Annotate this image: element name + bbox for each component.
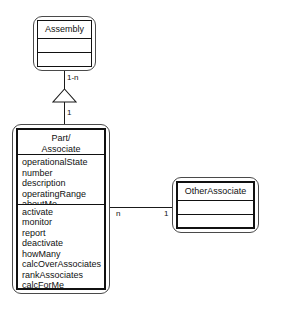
operation-item: calcForMe: [22, 280, 102, 288]
operation-item: monitor: [22, 217, 102, 228]
class-name-text-line1: Part/: [20, 133, 102, 144]
operation-item: howMany: [22, 249, 102, 260]
class-operations-compartment: [38, 53, 91, 66]
class-operations-compartment: [178, 215, 253, 228]
class-name-text: Assembly: [40, 24, 89, 35]
class-name-text: OtherAssociate: [180, 186, 251, 197]
class-name-compartment: Part/ Associate: [18, 130, 104, 155]
aggregation-hollow-triangle-arrowhead: [52, 88, 77, 103]
class-operations-compartment: activate monitor report deactivate howMa…: [18, 205, 104, 288]
operation-item: report: [22, 228, 102, 239]
attribute-item: operatingRange: [22, 189, 102, 200]
class-inner-frame: Assembly: [37, 20, 92, 67]
class-name-text-line2: Associate: [20, 144, 102, 155]
class-inner-frame: OtherAssociate: [176, 181, 255, 229]
multiplicity-label-part-generalization-end: 1: [67, 108, 71, 117]
attribute-item: number: [22, 168, 102, 179]
class-name-compartment: Assembly: [38, 21, 91, 39]
class-box-part-associate[interactable]: Part/ Associate operationalState number …: [12, 124, 110, 294]
attribute-item: operationalState: [22, 157, 102, 168]
class-inner-frame: Part/ Associate operationalState number …: [16, 128, 106, 290]
class-attributes-compartment: [178, 201, 253, 215]
operation-item: deactivate: [22, 238, 102, 249]
class-attributes-compartment: operationalState number description oper…: [18, 155, 104, 204]
hollow-triangle-icon: [52, 88, 77, 103]
class-name-compartment: OtherAssociate: [178, 183, 253, 201]
aggregation-edge-lower-segment: [64, 102, 65, 124]
operation-item: activate: [22, 207, 102, 218]
operation-item: rankAssociates: [22, 270, 102, 281]
multiplicity-label-part-association-end: n: [116, 209, 120, 218]
multiplicity-label-assembly-end: 1-n: [67, 73, 79, 82]
attribute-item: description: [22, 178, 102, 189]
class-attributes-compartment: [38, 39, 91, 53]
multiplicity-label-other-association-end: 1: [164, 209, 168, 218]
aggregation-edge-upper-segment: [64, 71, 65, 89]
association-edge-horizontal: [110, 207, 172, 208]
diagram-canvas: Assembly 1-n 1 Part/ Associate operation…: [0, 0, 286, 309]
class-box-assembly[interactable]: Assembly: [33, 16, 96, 71]
operation-item: calcOverAssociates: [22, 259, 102, 270]
class-box-other-associate[interactable]: OtherAssociate: [172, 177, 259, 233]
